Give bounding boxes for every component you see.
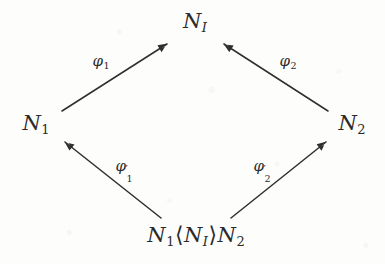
edge-phi-1-prime-arrow bbox=[65, 142, 161, 218]
node-left-subscript: 1 bbox=[41, 121, 49, 136]
edge-label-phi-2: φ2 bbox=[279, 54, 296, 70]
node-bottom-amalgam: N1⟨NI⟩N2 bbox=[147, 224, 244, 248]
node-bottom-base-1: N bbox=[147, 223, 165, 247]
node-left-N-1: N1 bbox=[22, 113, 49, 136]
phi-glyph: φ bbox=[116, 157, 127, 175]
node-bottom-base-2: N bbox=[218, 223, 236, 247]
phi-2-prime-subscript: 2 bbox=[265, 173, 271, 183]
node-left-base: N bbox=[22, 111, 40, 135]
node-bottom-subscript-1: 1 bbox=[166, 234, 174, 249]
node-top-base: N bbox=[183, 9, 201, 33]
node-top-N-I: NI bbox=[183, 11, 207, 34]
edge-label-phi-1: φ1 bbox=[92, 54, 109, 70]
phi-glyph: φ bbox=[254, 157, 265, 175]
close-angle-bracket-icon: ⟩ bbox=[208, 222, 218, 247]
node-bottom-inner-base: N bbox=[184, 223, 202, 247]
node-top-subscript: I bbox=[202, 19, 207, 34]
edge-label-phi-1-prime: φ′1 bbox=[116, 159, 135, 174]
phi-1-prime-subscript: 1 bbox=[127, 173, 133, 183]
edge-phi-1-arrow bbox=[62, 44, 167, 111]
edge-phi-2-arrow bbox=[224, 44, 328, 111]
open-angle-bracket-icon: ⟨ bbox=[174, 222, 184, 247]
phi-1-subscript: 1 bbox=[103, 60, 109, 71]
commutative-diagram-figure: NI N1 N2 N1⟨NI⟩N2 φ1 φ2 φ′1 φ′2 bbox=[0, 0, 385, 264]
node-bottom-subscript-2: 2 bbox=[236, 234, 244, 249]
phi-2-subscript: 2 bbox=[290, 60, 296, 71]
edge-phi-2-prime-arrow bbox=[231, 142, 326, 218]
phi-glyph: φ bbox=[92, 52, 103, 70]
node-right-subscript: 2 bbox=[357, 121, 365, 136]
node-bottom-inner-subscript: I bbox=[203, 234, 208, 249]
phi-glyph: φ bbox=[279, 52, 290, 70]
node-right-N-2: N2 bbox=[338, 113, 365, 136]
edge-label-phi-2-prime: φ′2 bbox=[254, 159, 273, 174]
node-right-base: N bbox=[338, 111, 356, 135]
